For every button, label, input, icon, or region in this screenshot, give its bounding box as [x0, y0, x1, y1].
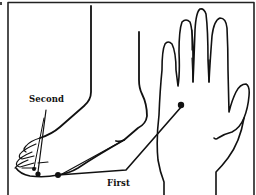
point-first-foot: [55, 172, 61, 178]
foot-leg-front-line: [40, 6, 91, 138]
point-second-foot-2: [32, 167, 36, 171]
hand-outline: [157, 9, 249, 195]
point-second-foot: [35, 171, 40, 176]
illustration-figure: Second First: [0, 0, 256, 195]
hand-wrist-right: [216, 118, 244, 195]
corner-mark: [0, 2, 2, 5]
pointer-first-foot-to-leg: [62, 140, 124, 174]
label-first: First: [107, 178, 130, 188]
foot-leg-back-line: [116, 32, 147, 141]
label-second: Second: [29, 94, 64, 104]
point-first-hand: [178, 102, 184, 108]
